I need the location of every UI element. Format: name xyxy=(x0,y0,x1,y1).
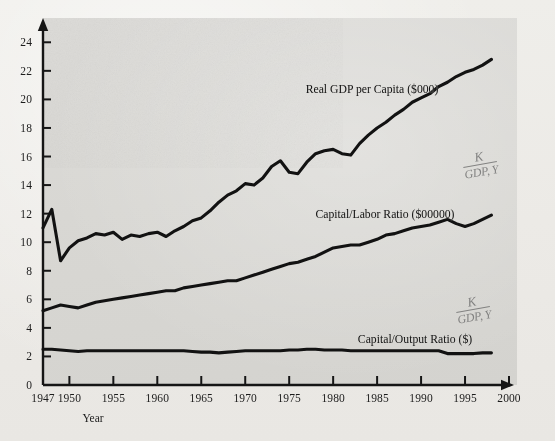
series-line-capital-labor-ratio xyxy=(43,215,491,311)
pencil-note-lower: K GDP, Y xyxy=(454,292,492,325)
y-tick-label-12: 12 xyxy=(2,208,32,220)
series-label-capital-output-ratio: Capital/Output Ratio ($) xyxy=(358,333,472,346)
x-tick-label-2000: 2000 xyxy=(497,392,520,404)
series-label-real-gdp-per-capita: Real GDP per Capita ($000) xyxy=(306,83,439,96)
x-tick-label-1990: 1990 xyxy=(409,392,432,404)
y-tick-label-6: 6 xyxy=(2,293,32,305)
series-label-capital-labor-ratio: Capital/Labor Ratio ($00000) xyxy=(316,208,455,221)
x-tick-label-1975: 1975 xyxy=(277,392,300,404)
x-tick-label-1980: 1980 xyxy=(321,392,344,404)
y-tick-label-8: 8 xyxy=(2,265,32,277)
figure-container: 024681012141618202224 194719501955196019… xyxy=(0,0,555,441)
x-tick-label-1985: 1985 xyxy=(365,392,388,404)
x-tick-label-1955: 1955 xyxy=(102,392,125,404)
y-tick-label-22: 22 xyxy=(2,65,32,77)
y-tick-label-10: 10 xyxy=(2,236,32,248)
x-tick-label-1970: 1970 xyxy=(234,392,257,404)
x-tick-label-1995: 1995 xyxy=(453,392,476,404)
y-tick-label-20: 20 xyxy=(2,93,32,105)
chart-canvas xyxy=(0,0,555,441)
y-tick-label-14: 14 xyxy=(2,179,32,191)
y-tick-label-2: 2 xyxy=(2,350,32,362)
x-tick-label-1947: 1947 xyxy=(31,392,54,404)
y-tick-label-4: 4 xyxy=(2,322,32,334)
x-tick-label-1965: 1965 xyxy=(190,392,213,404)
x-tick-label-1960: 1960 xyxy=(146,392,169,404)
x-tick-label-1950: 1950 xyxy=(58,392,81,404)
y-tick-label-18: 18 xyxy=(2,122,32,134)
pencil-note-upper: K GDP, Y xyxy=(461,147,499,180)
x-axis-title: Year xyxy=(82,412,103,424)
y-tick-label-24: 24 xyxy=(2,36,32,48)
y-tick-label-16: 16 xyxy=(2,151,32,163)
series-line-capital-output-ratio xyxy=(43,349,491,353)
y-tick-label-0: 0 xyxy=(2,379,32,391)
